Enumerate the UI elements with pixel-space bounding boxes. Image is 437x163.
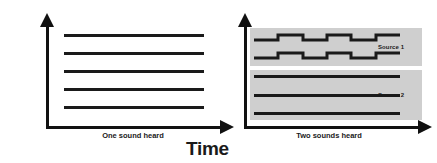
- y-axis-line: [46, 26, 49, 128]
- panel-caption: Two sounds heard: [254, 131, 404, 140]
- spectral-line: [64, 106, 204, 109]
- source-label-1: Source 1: [378, 44, 404, 50]
- y-axis-arrow-icon: [40, 13, 54, 27]
- spectral-line: [64, 34, 204, 37]
- panel-caption: One sound heard: [58, 131, 208, 140]
- stepped-spectral-line: [254, 32, 400, 44]
- panel-two-sounds: Source 1 Source 2 Two sounds heard: [228, 0, 437, 163]
- spectral-line: [64, 88, 204, 91]
- x-axis-line: [46, 126, 224, 129]
- x-axis-arrow-icon: [418, 120, 432, 134]
- y-axis-arrow-icon: [238, 13, 252, 27]
- y-axis-line: [244, 26, 247, 128]
- source-label-2: Source 2: [378, 92, 404, 98]
- frequency-time-diagram: Frequency Time One sound heard: [0, 0, 437, 163]
- x-axis-line: [244, 126, 422, 129]
- panel-one-sound: One sound heard: [28, 0, 228, 163]
- stepped-spectral-line: [254, 50, 400, 62]
- spectral-line: [254, 75, 400, 78]
- spectral-line: [254, 112, 400, 115]
- spectral-line: [64, 52, 204, 55]
- spectral-line: [64, 70, 204, 73]
